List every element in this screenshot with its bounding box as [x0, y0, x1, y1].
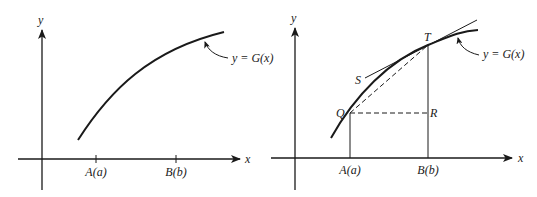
right-panel: y x A(a) B(b) y = G(x) Q R T S [271, 11, 524, 190]
left-curve-label: y = G(x) [231, 51, 273, 65]
left-y-axis-label: y [37, 13, 44, 27]
point-label-r: R [429, 106, 438, 120]
left-panel: y x A(a) B(b) y = G(x) [18, 13, 273, 190]
right-x-axis-label: x [517, 151, 524, 165]
right-curve-g [331, 30, 478, 138]
figure: y x A(a) B(b) y = G(x) y x A(a) B(b) y =… [0, 0, 537, 197]
left-curve-g [78, 32, 224, 140]
right-curve-pointer [458, 38, 479, 55]
diagram-canvas: y x A(a) B(b) y = G(x) y x A(a) B(b) y =… [0, 0, 537, 197]
left-tick-label-b: B(b) [165, 165, 186, 179]
left-x-axis-label: x [244, 152, 251, 166]
point-label-t: T [424, 30, 432, 44]
right-y-axis-label: y [290, 11, 297, 25]
left-tick-label-a: A(a) [84, 165, 106, 179]
right-dashed-qt-chord [350, 45, 428, 113]
left-curve-pointer [205, 42, 228, 58]
right-tick-label-a: A(a) [338, 163, 360, 177]
right-tick-label-b: B(b) [417, 163, 438, 177]
right-curve-label: y = G(x) [482, 47, 524, 61]
point-label-s: S [355, 73, 361, 87]
point-label-q: Q [336, 106, 345, 120]
